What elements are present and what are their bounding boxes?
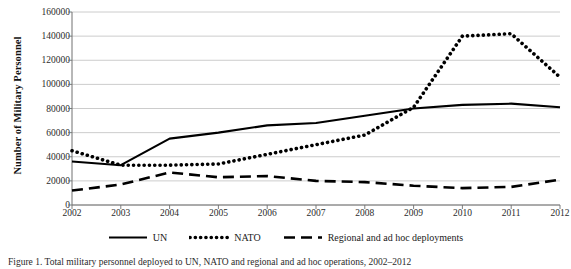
- figure-caption: Figure 1. Total military personnel deplo…: [8, 257, 568, 267]
- gridlines: [68, 12, 560, 205]
- legend-item-regional-and-ad-hoc-deployments[interactable]: Regional and ad hoc deployments: [283, 232, 464, 243]
- legend-item-nato[interactable]: NATO: [189, 232, 260, 243]
- chart-svg: [0, 0, 571, 215]
- legend-label-un: UN: [153, 232, 167, 243]
- x-tick-label: 2005: [209, 208, 228, 218]
- x-tick-label: 2003: [111, 208, 130, 218]
- chart-plot-area: Number of Military Personnel 16000014000…: [0, 0, 571, 215]
- figure-container: Number of Military Personnel 16000014000…: [0, 0, 571, 269]
- x-tick-label: 2011: [502, 208, 521, 218]
- x-tick-label: 2012: [551, 208, 570, 218]
- chart-legend: UNNATORegional and ad hoc deployments: [0, 228, 571, 246]
- series-line-nato: [72, 34, 560, 165]
- x-tick-label: 2010: [453, 208, 472, 218]
- series-line-un: [72, 104, 560, 166]
- x-tick-label: 2004: [160, 208, 179, 218]
- series-line-regional-and-ad-hoc-deployments: [72, 172, 560, 190]
- legend-swatch-un: [108, 233, 148, 242]
- x-tick-label: 2006: [258, 208, 277, 218]
- x-tick-label: 2009: [404, 208, 423, 218]
- legend-swatch-regional-and-ad-hoc-deployments: [283, 233, 323, 242]
- data-series: [72, 34, 560, 191]
- legend-label-nato: NATO: [234, 232, 260, 243]
- legend-label-regional-and-ad-hoc-deployments: Regional and ad hoc deployments: [328, 232, 464, 243]
- x-tick-label: 2008: [355, 208, 374, 218]
- legend-swatch-nato: [189, 233, 229, 242]
- x-tick-label: 2002: [63, 208, 82, 218]
- legend-item-un[interactable]: UN: [108, 232, 167, 243]
- x-tick-label: 2007: [307, 208, 326, 218]
